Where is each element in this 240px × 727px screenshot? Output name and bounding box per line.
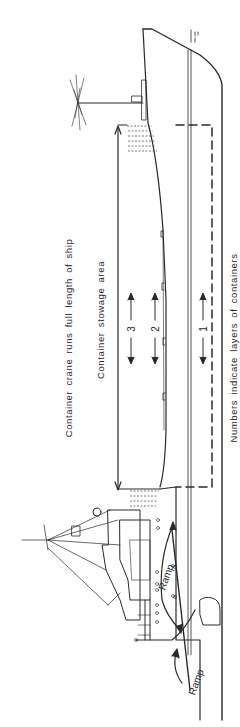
deck-line	[143, 29, 166, 487]
hold-dashed-outline	[176, 125, 212, 487]
radar-mast	[22, 510, 120, 605]
layer-number-1: 1	[198, 326, 209, 332]
bow-container-stack	[127, 126, 157, 151]
hull-outline	[143, 29, 222, 720]
layer-number-3: 3	[126, 326, 137, 332]
ship-profile-diagram	[0, 0, 240, 727]
layer-arrows	[128, 293, 206, 364]
funnel-emblem-icon	[93, 508, 101, 516]
crane-label: Container crane runs full length of ship	[63, 239, 74, 438]
stern-container-stack	[130, 491, 159, 506]
rudder-icon	[200, 597, 220, 625]
stowage-label: Container stowage area	[95, 261, 106, 379]
layers-note-label: Numbers indicate layers of containers	[228, 253, 239, 442]
superstructure	[102, 510, 150, 640]
waterline-mark-bow	[191, 30, 198, 42]
layer-number-2: 2	[150, 326, 161, 332]
